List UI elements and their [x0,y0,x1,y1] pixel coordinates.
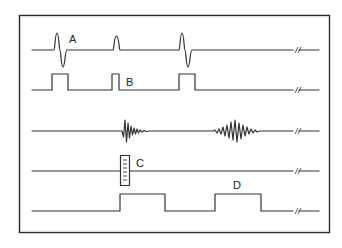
label-a: A [69,33,77,45]
label-c: C [136,157,144,169]
row-c-trace: C [32,156,319,186]
row-d-trace: D [32,179,319,214]
row-burst-trace [32,120,319,142]
diagram-frame [20,16,330,233]
label-d: D [233,179,241,191]
scale-marker-ticks [123,160,127,180]
row-a-trace: A [32,33,319,67]
row-b-trace: B [32,74,319,93]
waveform-diagram: A B [0,0,342,248]
label-b: B [126,76,133,88]
